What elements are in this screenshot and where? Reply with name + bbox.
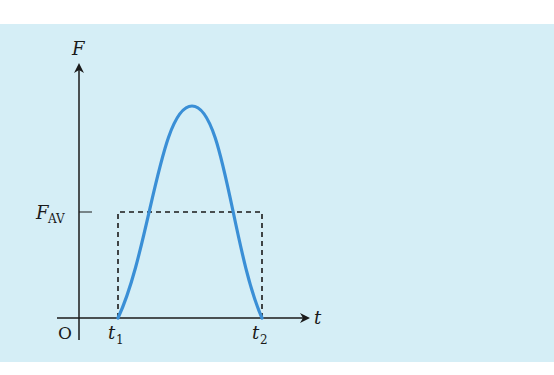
x-axis-label: t xyxy=(314,307,322,328)
t2-subscript: 2 xyxy=(260,333,268,347)
fav-subscript: AV xyxy=(47,212,65,226)
average-force-box xyxy=(118,212,262,318)
y-axis-label: F xyxy=(71,38,86,59)
origin-label: O xyxy=(58,323,72,343)
t1-subscript: 1 xyxy=(116,333,124,347)
force-time-diagram: F t O F AV t 1 t 2 xyxy=(0,0,554,375)
t2-label: t xyxy=(252,322,260,343)
t1-label: t xyxy=(108,322,116,343)
